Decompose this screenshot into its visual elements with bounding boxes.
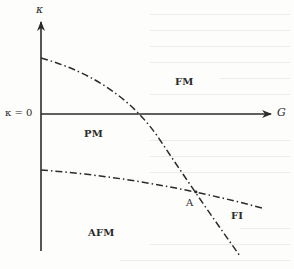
region-label-afm: AFM	[88, 228, 115, 238]
region-label-pm: PM	[84, 129, 103, 139]
y-axis-label: κ	[36, 4, 43, 15]
fm-pm-boundary-curve	[41, 58, 240, 256]
region-label-fm: FM	[175, 77, 194, 87]
kappa-zero-label: κ = 0	[5, 108, 32, 118]
diagram-graphics	[0, 0, 294, 269]
point-a-marker	[195, 191, 198, 194]
phase-diagram: κ G κ = 0 FM PM AFM FI A	[0, 0, 294, 269]
region-label-fi: FI	[231, 211, 243, 221]
point-a-label: A	[186, 198, 193, 208]
pm-afm-boundary-curve	[41, 170, 262, 208]
x-axis-label: G	[277, 107, 286, 118]
